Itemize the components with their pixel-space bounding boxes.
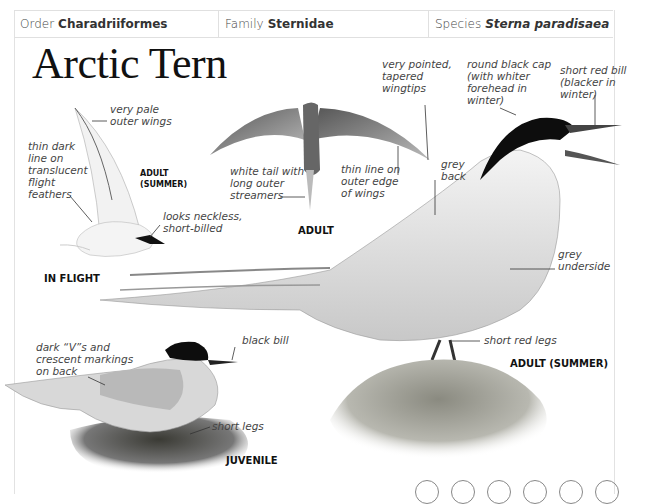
caption-adult-summer: ADULT (SUMMER) (510, 358, 608, 370)
annotation-black-bill: black bill (242, 334, 289, 346)
footer-circle-icon (595, 480, 619, 504)
footer-circle-icon (415, 480, 439, 504)
annotation-white-tail: white tail with long outer streamers (230, 165, 304, 201)
annotation-thin-line-outer-edge: thin line on outer edge of wings (341, 163, 400, 199)
annotation-red-legs: short red legs (484, 334, 557, 346)
annotation-red-bill: short red bill (blacker in winter) (560, 64, 627, 100)
annotation-pale-outer-wings: very pale outer wings (110, 103, 172, 127)
caption-adult-summer-flight: ADULT (SUMMER) (140, 168, 187, 190)
annotation-neckless: looks neckless, short-billed (163, 210, 242, 234)
caption-in-flight: IN FLIGHT (44, 273, 100, 285)
annotation-grey-underside: grey underside (558, 248, 610, 272)
annotation-grey-back: grey back (441, 158, 466, 182)
annotation-black-cap: round black cap (with whiter forehead in… (467, 58, 551, 106)
caption-juvenile: JUVENILE (226, 455, 278, 467)
footer-icon-row (415, 480, 619, 504)
annotation-thin-dark-line: thin dark line on translucent flight fea… (28, 140, 88, 200)
annotation-short-legs: short legs (212, 420, 264, 432)
footer-circle-icon (559, 480, 583, 504)
footer-circle-icon (451, 480, 475, 504)
annotation-dark-vs: dark “V”s and crescent markings on back (36, 341, 133, 377)
footer-circle-icon (487, 480, 511, 504)
caption-adult: ADULT (298, 225, 334, 237)
annotation-pointed-wingtips: very pointed, tapered wingtips (382, 58, 452, 94)
footer-circle-icon (523, 480, 547, 504)
